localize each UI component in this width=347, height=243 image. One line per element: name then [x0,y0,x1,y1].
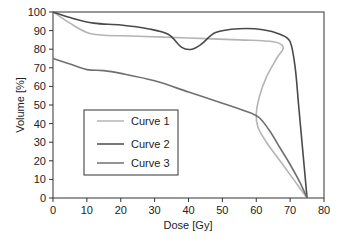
x-tick-label: 70 [284,204,296,216]
y-tick-label: 20 [34,155,46,167]
y-tick-label: 60 [34,80,46,92]
x-tick-label: 80 [318,204,330,216]
legend-label-curve-2: Curve 2 [131,138,170,150]
y-tick-label: 10 [34,173,46,185]
y-tick-label: 80 [34,43,46,55]
y-tick-label: 70 [34,62,46,74]
y-tick-label: 100 [28,6,46,18]
x-tick-label: 40 [182,204,194,216]
x-tick-label: 60 [250,204,262,216]
x-tick-label: 10 [81,204,93,216]
y-tick-label: 0 [40,192,46,204]
y-tick-label: 30 [34,136,46,148]
x-tick-label: 0 [50,204,56,216]
x-tick-label: 20 [115,204,127,216]
legend: Curve 1 Curve 2 Curve 3 [84,110,178,175]
y-tick-label: 50 [34,99,46,111]
y-tick-label: 90 [34,25,46,37]
x-tick-label: 50 [216,204,228,216]
dose-volume-chart: 010203040506070809010001020304050607080 … [0,0,347,243]
legend-label-curve-3: Curve 3 [131,157,170,169]
x-axis-label: Dose [Gy] [164,219,213,231]
y-axis-label: Volume [%] [14,77,26,133]
x-tick-label: 30 [149,204,161,216]
legend-label-curve-1: Curve 1 [131,115,170,127]
y-tick-label: 40 [34,118,46,130]
